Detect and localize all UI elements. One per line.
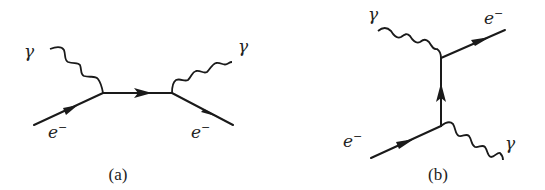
label-photon-in: γ [368,4,379,24]
label-photon-out: γ [505,133,516,153]
photon-in-wavy-line [378,28,441,58]
label-photon-in: γ [24,41,35,61]
electron-out-arrow-icon [201,109,219,117]
photon-in-wavy-line [50,47,103,93]
photon-out-wavy-line [441,122,503,160]
electron-in-arrow-icon [396,139,414,149]
electron-in-arrow-icon [63,105,78,115]
label-electron-in: e− [343,130,362,151]
photon-out-wavy-line [172,62,232,93]
feynman-diagrams: γ γ e− e− (a) γ e− e− γ (b) [0,0,545,190]
caption-b: (b) [428,165,448,184]
label-electron-in: e− [48,121,67,142]
caption-a: (a) [109,165,128,184]
label-electron-out: e− [191,121,210,142]
label-photon-out: γ [238,36,249,56]
label-electron-out: e− [484,7,503,28]
panel-a: γ γ e− e− (a) [24,36,249,184]
panel-b: γ e− e− γ (b) [343,4,516,184]
electron-out-line [441,30,505,58]
